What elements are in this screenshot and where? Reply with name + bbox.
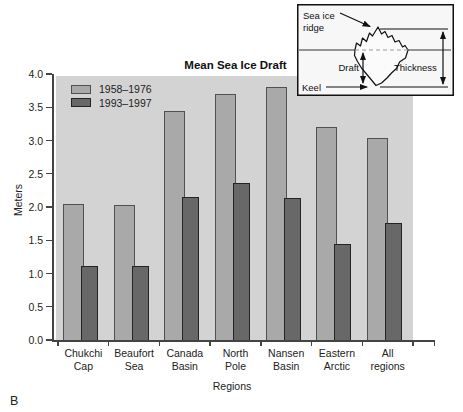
legend-label-1958-1976: 1958–1976: [99, 83, 152, 95]
bar-1993-1997-north-pole: [233, 183, 250, 340]
y-tick-label: 3.5: [13, 101, 43, 113]
x-tick: [260, 341, 261, 346]
bar-1993-1997-eastern-arctic: [334, 244, 351, 340]
x-tick: [311, 341, 312, 346]
legend: 1958–1976 1993–1997: [71, 83, 152, 110]
legend-label-1993-1997: 1993–1997: [99, 97, 152, 109]
y-tick-label: 0.0: [13, 334, 43, 346]
sea-ice-inset-diagram: Sea ice ridge Draft Thickness Keel: [297, 4, 454, 96]
y-tick: [46, 140, 52, 141]
y-tick-label: 3.0: [13, 135, 43, 147]
x-tick: [362, 341, 363, 346]
y-axis-title: Meters: [12, 170, 26, 230]
bar-1993-1997-canada-basin: [182, 197, 199, 340]
y-tick: [46, 173, 52, 174]
x-axis-end-tick: [434, 341, 435, 346]
y-tick-label: 1.5: [13, 234, 43, 246]
legend-entry-1993-1997: 1993–1997: [71, 97, 152, 110]
inset-label-sea-ice: Sea ice: [303, 10, 335, 21]
x-tick: [159, 341, 160, 346]
inset-label-draft: Draft: [338, 62, 359, 73]
legend-swatch-1958-1976: [71, 85, 91, 94]
y-tick-label: 1.0: [13, 268, 43, 280]
legend-entry-1958-1976: 1958–1976: [71, 83, 152, 96]
y-tick: [46, 273, 52, 274]
x-tick: [108, 341, 109, 346]
bar-1993-1997-chukchi-cap: [81, 266, 98, 340]
y-tick: [46, 339, 52, 340]
inset-label-keel: Keel: [302, 82, 321, 93]
legend-swatch-1993-1997: [71, 98, 91, 107]
inset-label-thickness: Thickness: [394, 62, 437, 73]
y-tick: [46, 73, 52, 74]
x-tick: [209, 341, 210, 346]
y-tick-label: 0.5: [13, 301, 43, 313]
x-tick: [57, 341, 58, 346]
figure-panel-label: B: [10, 394, 18, 408]
inset-label-ridge: ridge: [303, 22, 324, 33]
x-tick: [412, 341, 413, 346]
category-label-all-regions: Allregions: [356, 347, 420, 372]
y-tick: [46, 240, 52, 241]
y-tick: [46, 107, 52, 108]
bar-1993-1997-beaufort-sea: [132, 266, 149, 340]
y-tick: [46, 206, 52, 207]
sea-ice-draft-figure: Mean Sea Ice Draft 0.00.51.01.52.02.53.0…: [0, 0, 463, 412]
y-tick: [46, 306, 52, 307]
bar-1993-1997-nansen-basin: [284, 198, 301, 340]
x-axis-title: Regions: [58, 380, 406, 392]
y-tick-label: 4.0: [13, 68, 43, 80]
bar-1993-1997-all-regions: [385, 223, 402, 340]
